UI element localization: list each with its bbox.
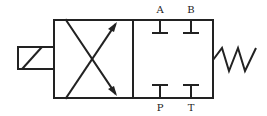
- valve-symbol: A B P T: [0, 0, 267, 116]
- port-label-b: B: [187, 4, 194, 15]
- crossed-flow-arrows-icon: [66, 20, 115, 98]
- port-label-p: P: [157, 102, 164, 113]
- spring-icon: [213, 48, 256, 71]
- port-label-a: A: [155, 4, 164, 15]
- solenoid-icon: [18, 47, 54, 69]
- port-label-t: T: [188, 102, 195, 113]
- blocked-ports-icon: [152, 20, 199, 98]
